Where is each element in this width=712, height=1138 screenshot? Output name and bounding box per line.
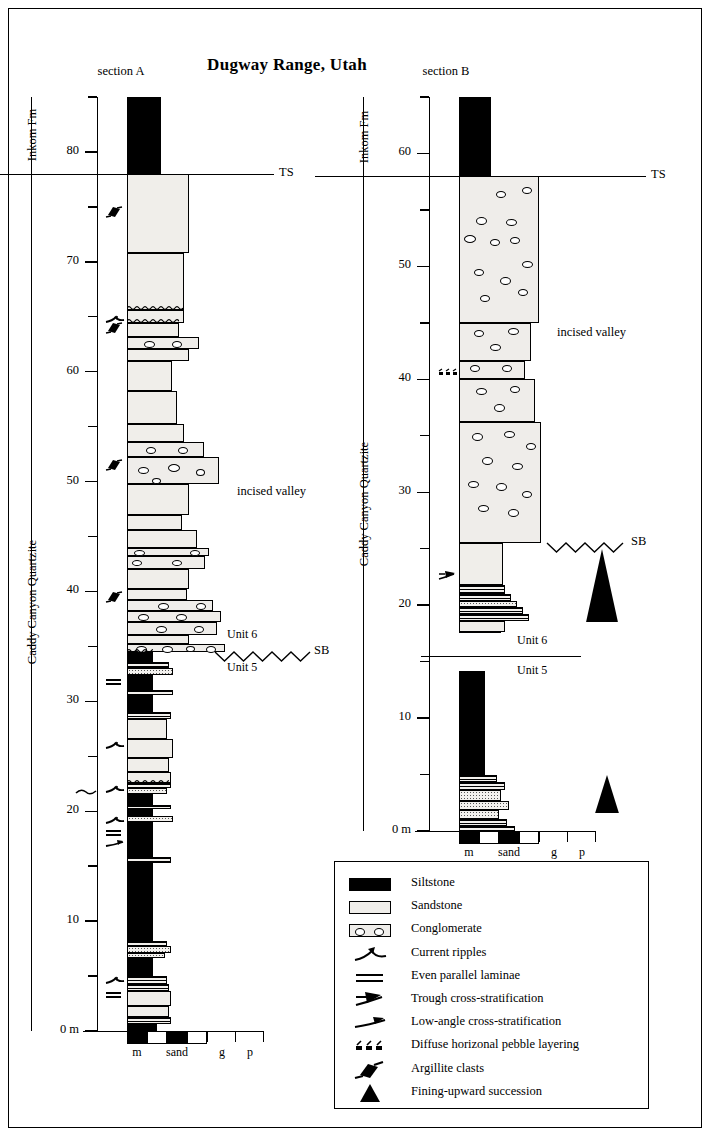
bed-siltstone [127,809,153,816]
structure-symbol-low-angle-cross-strat-a [105,839,125,849]
bed-conglomerate [127,442,204,457]
grain-scale-tick-2-a [263,1031,264,1042]
bed-sandstone [127,349,189,361]
grain-scale-cell-3-a [187,1031,207,1044]
grain-scale-tick-2-b [595,831,596,842]
siltstone-swatch [349,878,391,891]
argillite-clasts-icon [353,1060,387,1082]
conglomerate-swatch [349,924,391,937]
bed-sandstone [127,758,169,771]
pebble-clast [464,235,476,243]
current-ripples-icon [353,945,387,965]
marker-label-ts-b: TS [651,167,666,182]
bed-conglomerate [459,176,539,323]
bed-siltstone [127,863,153,941]
pebble-clast [138,614,149,621]
grain-scale-cell-0-b [459,831,479,844]
siltstone-swatch [349,872,395,896]
bed-siltstone [127,695,153,713]
low-angle-cross-strat-icon [353,1014,387,1034]
pebble-clast [172,341,182,348]
structure-symbol-even-parallel-laminae-a [105,677,123,687]
legend-item-label: Even parallel laminae [411,968,520,983]
bed-sandstone [127,515,182,530]
bed-siltstone-inkom [459,97,491,176]
pebble-clast [196,469,205,476]
pebble-clast [186,646,195,652]
unit-label-unit-6-a: Unit 6 [227,627,257,642]
legend-item: Even parallel laminae [335,965,648,989]
pebble-clast [168,464,180,472]
axis-tick-label-30: 30 [367,483,411,498]
axis-tick-major-50 [85,481,98,482]
axis-tick-minor-65 [88,316,97,317]
axis-tick-major-30 [85,701,98,702]
bed-sandstone-thin [459,601,517,608]
axis-tick-minor-75 [88,206,97,207]
axis-tick-label-40: 40 [367,370,411,385]
bed-sandstone [127,739,173,759]
grain-scale-tick-1-a [235,1031,236,1042]
axis-tick-major-60 [417,153,430,154]
bed-siltstone [459,671,485,775]
bed-sandstone [127,361,172,392]
axis-tick-minor-25 [420,548,429,549]
axis-tick-major-40 [85,591,98,592]
pebble-clast [522,491,532,498]
legend-item-label: Current ripples [411,945,486,960]
legend-item: Fining-upward succession [335,1081,648,1105]
axis-tick-minor-55 [88,426,97,427]
bed-sandstone [127,991,171,1005]
bed-sandstone [127,424,184,442]
axis-tick-minor-5 [88,975,97,976]
bed-sandstone [127,530,197,548]
pebble-clast [196,603,206,610]
pebble-clast [470,365,480,372]
axis-tick-major-20 [417,604,430,605]
bed-conglomerate [459,422,541,543]
structure-symbol-current-ripples-a [105,314,125,324]
even-parallel-laminae-icon [349,965,395,989]
axis-tick-label-20: 20 [367,596,411,611]
structure-symbol-argillite-clasts-a [105,457,123,473]
pebble-clast [132,560,142,566]
bed-siltstone [127,794,153,805]
pebble-clast [496,191,506,198]
grain-scale-label-sand-b: sand [479,845,539,860]
grain-scale-cell-1-b [479,831,499,844]
bed-conglomerate [127,548,209,557]
bed-conglomerate [127,556,205,569]
axis-tick-major-50 [417,266,430,267]
bed-sandstone [127,1006,169,1017]
bed-sandstone [127,569,189,589]
marker-label-sb-a: SB [314,643,329,658]
pebble-clast [504,431,515,438]
pebble-clast [512,463,523,470]
bed-sandstone [127,174,189,253]
bed-sandstone [127,253,184,310]
pebble-clast [176,614,187,621]
bed-sandstone [459,543,503,585]
pebble-clast [158,603,169,610]
axis-tick-major-70 [85,261,98,262]
axis-tick-minor-65 [420,96,429,97]
grain-scale-label-p-a: p [239,1045,261,1060]
pebble-clast [490,239,500,246]
pebble-clast [476,217,487,225]
bed-interbedded [127,984,169,992]
sandstone-swatch [349,895,395,919]
axis-tick-major-60 [85,371,98,372]
axis-tick-major-10 [85,920,98,921]
annotation-incised-valley-a: incised valley [237,484,306,499]
axis-tick-minor-45 [420,322,429,323]
structure-symbol-current-ripples-a [105,815,125,825]
pebble-clast [172,560,182,566]
bed-sandstone [127,635,189,644]
axis-tick-label-60: 60 [367,144,411,159]
pebble-clast [190,550,200,556]
trough-cross-strat-icon [349,988,395,1012]
axis-tick-minor-25 [88,756,97,757]
figure-frame: Dugway Range, Utah section A section B S… [8,8,702,1128]
pebble-clast [468,481,479,488]
legend-item-label: Trough cross-stratification [411,991,544,1006]
